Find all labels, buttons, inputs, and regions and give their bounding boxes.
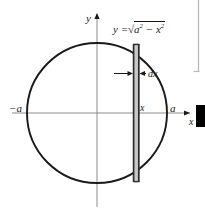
dx-right-arrowhead-icon <box>139 71 145 76</box>
dx-label: dx <box>148 69 157 79</box>
y-axis-label: y <box>86 13 91 24</box>
radicand-minus: − <box>146 23 153 35</box>
x-axis-label: x <box>189 117 193 127</box>
dx-dimension-arrows <box>114 71 146 76</box>
radicand-x-exponent: 2 <box>161 22 164 29</box>
dx-left-arrowhead-icon <box>128 71 134 76</box>
radicand-a-exponent: 2 <box>140 22 143 29</box>
positive-a-label: a <box>170 103 176 114</box>
x-axis-arrowhead-icon <box>184 110 190 115</box>
curve-equation: y =√a2 − x2 <box>113 21 165 35</box>
strip-x-label: x <box>140 103 144 113</box>
margin-marker-block <box>196 105 205 127</box>
circle-strip-diagram: y x −a a x dx y =√a2 − x2 <box>0 0 205 220</box>
x-axis <box>12 110 190 115</box>
radicand: a2 − x2 <box>134 21 165 35</box>
negative-a-label: −a <box>9 103 22 114</box>
equation-lhs: y = <box>113 23 128 35</box>
y-axis-arrowhead-icon <box>94 13 99 19</box>
vertical-strip <box>133 44 139 182</box>
